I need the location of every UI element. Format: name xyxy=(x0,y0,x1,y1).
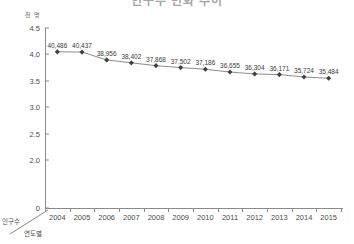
data-point-label: 36,171 xyxy=(269,65,289,72)
x-tick-label: 2006 xyxy=(98,213,115,222)
x-tick-mark xyxy=(242,208,243,212)
data-point-label: 35,724 xyxy=(294,67,314,74)
x-tick-mark xyxy=(267,208,268,212)
corner-label-year: 연도별 xyxy=(24,228,42,238)
data-point-marker xyxy=(252,71,257,76)
x-tick-label: 2007 xyxy=(123,213,140,222)
y-tick-mark xyxy=(45,54,49,55)
data-point-marker xyxy=(301,74,306,79)
x-axis-line xyxy=(45,208,343,209)
y-tick-label: 2.5 xyxy=(0,129,40,138)
data-point-label: 40,486 xyxy=(47,42,67,49)
data-point-label: 35,484 xyxy=(319,68,339,75)
x-tick-mark xyxy=(94,208,95,212)
y-tick-label: 3.5 xyxy=(0,76,40,85)
y-axis-unit-label: 천 명 xyxy=(25,10,40,19)
y-tick-mark xyxy=(45,133,49,134)
x-tick-label: 2015 xyxy=(320,213,337,222)
x-tick-mark xyxy=(168,208,169,212)
y-tick-mark xyxy=(45,80,49,81)
data-point-marker xyxy=(129,60,134,65)
y-tick-label: 2.0 xyxy=(0,156,40,165)
data-point-label: 38,956 xyxy=(97,50,117,57)
data-point-marker xyxy=(203,67,208,72)
data-point-marker xyxy=(277,72,282,77)
data-point-marker xyxy=(227,70,232,75)
x-tick-mark xyxy=(292,208,293,212)
chart-title: 인구수 변화 추이 xyxy=(0,0,354,8)
data-point-label: 37,186 xyxy=(195,59,215,66)
data-point-marker xyxy=(55,49,60,54)
data-point-label: 37,502 xyxy=(171,58,191,65)
corner-label-population: 인구수 xyxy=(2,216,20,226)
plot-area: 40,48640,43738,95638,40237,86837,50237,1… xyxy=(45,28,341,208)
chart-container: 인구수 변화 추이 천 명 40,48640,43738,95638,40237… xyxy=(0,0,354,244)
y-tick-label: 4.0 xyxy=(0,50,40,59)
data-point-marker xyxy=(178,65,183,70)
x-tick-label: 2014 xyxy=(296,213,313,222)
data-point-marker xyxy=(153,63,158,68)
y-tick-mark xyxy=(45,107,49,108)
x-tick-label: 2009 xyxy=(172,213,189,222)
x-tick-label: 2005 xyxy=(74,213,91,222)
x-tick-label: 2010 xyxy=(197,213,214,222)
data-point-marker xyxy=(326,76,331,81)
data-point-label: 38,402 xyxy=(121,53,141,60)
data-point-marker xyxy=(104,57,109,62)
x-tick-label: 2013 xyxy=(271,213,288,222)
y-tick-mark xyxy=(45,160,49,161)
x-tick-mark xyxy=(193,208,194,212)
y-tick-label: 3.0 xyxy=(0,103,40,112)
y-tick-label: 4.5 xyxy=(0,24,40,33)
x-tick-mark xyxy=(144,208,145,212)
data-point-label: 40,437 xyxy=(72,42,92,49)
y-tick-mark xyxy=(45,28,49,29)
data-point-label: 36,304 xyxy=(245,64,265,71)
data-point-label: 37,868 xyxy=(146,56,166,63)
population-line-series xyxy=(45,28,341,208)
x-tick-mark xyxy=(218,208,219,212)
x-tick-mark xyxy=(316,208,317,212)
data-point-label: 36,655 xyxy=(220,62,240,69)
x-tick-label: 2011 xyxy=(222,213,238,222)
x-tick-mark xyxy=(119,208,120,212)
data-point-marker xyxy=(79,50,84,55)
x-tick-label: 2012 xyxy=(246,213,263,222)
axis-corner-header: 인구수 연도별 xyxy=(2,206,72,240)
x-tick-label: 2008 xyxy=(148,213,165,222)
x-tick-mark xyxy=(341,208,342,212)
